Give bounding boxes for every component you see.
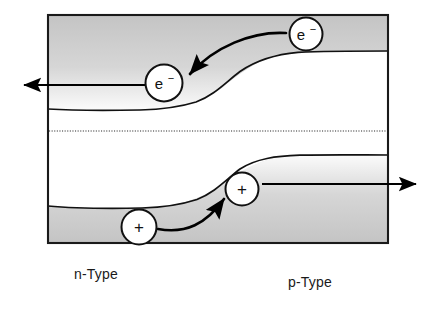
n-type-region-label: n-Type: [74, 266, 118, 282]
hole-p-side-symbol: +: [237, 180, 247, 199]
hole-n-side-symbol: +: [134, 218, 144, 237]
electron-p-side-circle: [290, 18, 323, 51]
device-body: [48, 15, 388, 243]
electron-n-side-circle: [146, 65, 183, 102]
electron-p-side-charge: −: [310, 23, 316, 35]
electron-n-side-symbol: e: [155, 75, 163, 92]
hole-n-side-marker: +: [122, 210, 157, 245]
electron-n-side-marker: e −: [146, 65, 183, 102]
band-diagram-canvas: e − e − + +: [0, 0, 440, 317]
electron-p-side-marker: e −: [290, 18, 323, 51]
hole-p-side-marker: +: [226, 173, 259, 206]
electron-p-side-symbol: e: [297, 26, 305, 43]
electron-n-side-charge: −: [168, 72, 174, 84]
band-diagram-figure: e − e − + + n-Type p-Type: [0, 0, 440, 317]
p-type-region-label: p-Type: [288, 274, 332, 290]
